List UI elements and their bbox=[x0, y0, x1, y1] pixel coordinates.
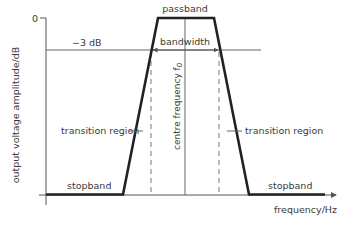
y-axis-label: output voltage amplitude/dB bbox=[10, 47, 21, 184]
minus-3db-label: −3 dB bbox=[72, 37, 102, 48]
passband-label: passband bbox=[162, 3, 208, 14]
transition-region-right-label: transition region bbox=[245, 125, 323, 136]
x-axis-label: frequency/Hz bbox=[274, 204, 337, 215]
transition-region-right: transition region bbox=[227, 125, 323, 136]
y-axis-tick-label-zero: 0 bbox=[32, 13, 38, 24]
bandwidth-label: bandwidth bbox=[160, 36, 210, 47]
stopband-right-label: stopband bbox=[268, 180, 312, 191]
x-axis: frequency/Hz bbox=[39, 195, 337, 215]
stopband-left-label: stopband bbox=[67, 180, 111, 191]
y-axis: 0 output voltage amplitude/dB bbox=[10, 13, 46, 205]
centre-frequency-label: centre frequency f0 bbox=[172, 62, 184, 150]
filter-response-diagram: 0 output voltage amplitude/dB frequency/… bbox=[0, 0, 354, 226]
transition-region-left: transition region bbox=[61, 125, 143, 136]
transition-region-left-label: transition region bbox=[61, 125, 139, 136]
